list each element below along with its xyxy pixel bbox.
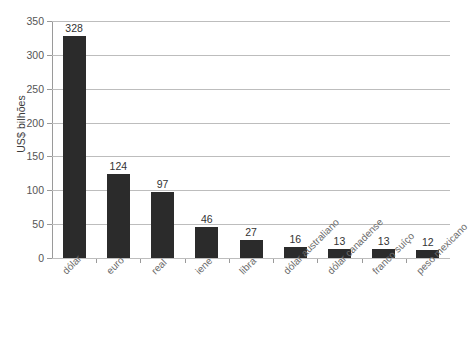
gridline [52,21,450,22]
x-tick-mark [362,259,363,263]
x-tick-mark [406,259,407,263]
x-tick-mark [140,259,141,263]
y-tick-label-wrap: 250 [0,84,44,94]
y-tick-label-wrap: 100 [0,185,44,195]
y-tick-label: 150 [4,151,44,161]
x-tick-mark [96,259,97,263]
y-tick-label-wrap: 150 [0,151,44,161]
bar [151,192,174,258]
y-tick-label: 0 [4,253,44,263]
y-tick-label: 300 [4,50,44,60]
gridline [52,123,450,124]
x-tick-mark [229,259,230,263]
x-category-label: real [149,257,169,277]
x-tick-mark [273,259,274,263]
x-tick-mark [317,259,318,263]
x-tick-mark [185,259,186,263]
y-tick-label: 350 [4,16,44,26]
y-tick-label: 100 [4,185,44,195]
y-tick-label: 200 [4,118,44,128]
y-tick-label: 50 [4,219,44,229]
plot-area: 32812497462716131312 [52,21,450,258]
y-tick-label-wrap: 300 [0,50,44,60]
gridline [52,89,450,90]
gridline [52,156,450,157]
y-tick-label-wrap: 200 [0,118,44,128]
gridline [52,55,450,56]
bar [63,36,86,258]
bar-value-label: 27 [231,227,271,238]
bar-value-label: 46 [187,214,227,225]
y-tick-label-wrap: 350 [0,16,44,26]
y-tick-label-wrap: 0 [0,253,44,263]
bar-value-label: 97 [143,179,183,190]
bar-value-label: 124 [98,161,138,172]
y-tick-label: 250 [4,84,44,94]
bar-value-label: 328 [54,23,94,34]
bar [107,174,130,258]
y-tick-label-wrap: 50 [0,219,44,229]
bar [195,227,218,258]
